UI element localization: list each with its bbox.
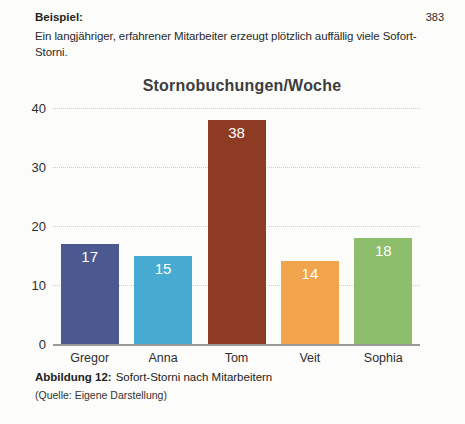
bar-value-gregor: 17	[61, 248, 119, 265]
page-number: 383	[426, 11, 444, 23]
bar-anna: 15	[134, 256, 192, 345]
bar-sophia: 18	[354, 238, 412, 344]
gridline-40	[53, 108, 420, 109]
figure-caption: Abbildung 12:Sofort-Storni nach Mitarbei…	[35, 371, 272, 383]
figure-source: (Quelle: Eigene Darstellung)	[35, 389, 167, 401]
chart-title: Stornobuchungen/Woche	[53, 77, 431, 95]
x-axis: GregorAnnaTomVeitSophia	[53, 351, 420, 367]
y-axis: 010203040	[0, 108, 46, 346]
bar-value-sophia: 18	[354, 242, 412, 259]
bar-tom: 38	[208, 120, 266, 344]
figure-caption-text: Sofort-Storni nach Mitarbeitern	[116, 371, 273, 383]
book-page: Beispiel: 383 Ein langjähriger, erfahren…	[0, 0, 465, 424]
x-tick-label-veit: Veit	[273, 351, 346, 365]
bar-veit: 14	[281, 261, 339, 344]
y-tick-label-10: 10	[0, 278, 46, 293]
y-tick-label-40: 40	[0, 101, 46, 116]
body-paragraph: Ein langjähriger, erfahrener Mitarbeiter…	[35, 29, 447, 60]
bar-value-tom: 38	[208, 124, 266, 141]
x-tick-label-gregor: Gregor	[53, 351, 126, 365]
example-label: Beispiel:	[35, 11, 83, 23]
bar-gregor: 17	[61, 244, 119, 344]
y-tick-label-30: 30	[0, 160, 46, 175]
y-tick-label-0: 0	[0, 337, 46, 352]
x-tick-label-tom: Tom	[200, 351, 273, 365]
y-tick-label-20: 20	[0, 219, 46, 234]
x-tick-label-anna: Anna	[126, 351, 199, 365]
bar-value-anna: 15	[134, 260, 192, 277]
x-tick-label-sophia: Sophia	[347, 351, 420, 365]
bar-value-veit: 14	[281, 265, 339, 282]
plot-area: 1715381418	[53, 108, 420, 346]
figure-caption-label: Abbildung 12:	[35, 371, 112, 383]
